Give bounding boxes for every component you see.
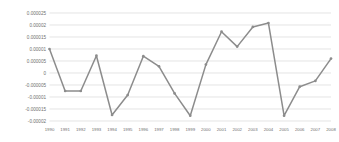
- data-point-marker: [64, 90, 67, 93]
- y-axis-tick-label: 0: [43, 71, 46, 76]
- x-axis-tick-label: 2000: [201, 127, 211, 132]
- x-axis-tick-label: 2001: [217, 127, 227, 132]
- y-axis-tick-label: 0.00002: [29, 23, 46, 28]
- x-axis-tick-label: 1992: [76, 127, 86, 132]
- data-point-marker: [173, 92, 176, 95]
- data-point-marker: [126, 94, 129, 97]
- data-point-marker: [205, 63, 208, 66]
- y-axis-tick-label: -0.000005: [25, 83, 46, 88]
- data-point-marker: [95, 54, 98, 57]
- y-axis-tick-label: -0.000015: [25, 107, 46, 112]
- x-axis-tick-label: 2005: [279, 127, 289, 132]
- data-point-marker: [251, 26, 254, 29]
- data-point-marker: [111, 114, 114, 117]
- data-point-marker: [236, 45, 239, 48]
- data-point-marker: [283, 114, 286, 117]
- x-axis-tick-label: 2006: [295, 127, 305, 132]
- data-point-marker: [267, 22, 270, 25]
- line-chart: 0.0000250.000020.0000150.000010.0000050-…: [0, 0, 339, 142]
- data-point-marker: [330, 57, 333, 60]
- x-axis-tick-label: 1996: [139, 127, 149, 132]
- x-axis-tick-label: 1995: [123, 127, 133, 132]
- x-axis-tick-label: 1994: [107, 127, 117, 132]
- x-axis-tick-label: 2007: [311, 127, 321, 132]
- y-axis-tick-label: -0.00002: [28, 119, 47, 124]
- x-axis-tick-label: 1997: [154, 127, 164, 132]
- data-point-marker: [48, 48, 51, 51]
- data-point-marker: [189, 114, 192, 117]
- y-axis-tick-label: 0.000025: [27, 11, 47, 16]
- y-axis-tick-label: 0.000015: [27, 35, 47, 40]
- x-axis-tick-label: 1991: [60, 127, 70, 132]
- x-axis-tick-label: 1990: [45, 127, 55, 132]
- y-axis-tick-label: 0.000005: [27, 59, 47, 64]
- x-axis-tick-label: 1999: [185, 127, 195, 132]
- chart-container: 0.0000250.000020.0000150.000010.0000050-…: [0, 0, 339, 142]
- data-point-marker: [79, 90, 82, 93]
- data-point-marker: [220, 30, 223, 33]
- x-axis-tick-label: 1998: [170, 127, 180, 132]
- data-point-marker: [158, 65, 161, 68]
- x-axis-tick-label: 2004: [264, 127, 274, 132]
- x-axis-tick-label: 2003: [248, 127, 258, 132]
- y-axis-tick-label: -0.00001: [28, 95, 47, 100]
- y-axis-tick-label: 0.00001: [29, 47, 46, 52]
- x-axis-tick-label: 2002: [232, 127, 242, 132]
- x-axis-tick-label: 1993: [92, 127, 102, 132]
- x-axis-tick-label: 2008: [326, 127, 336, 132]
- data-point-marker: [298, 85, 301, 88]
- data-point-marker: [142, 55, 145, 58]
- data-point-marker: [314, 80, 317, 83]
